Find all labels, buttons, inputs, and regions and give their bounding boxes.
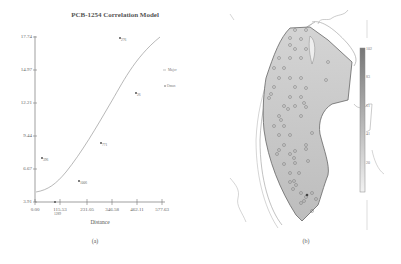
- caption-b: (b): [296, 238, 316, 244]
- caption-a: (a): [85, 238, 105, 244]
- colorbar-label: 41: [366, 131, 370, 136]
- correlation-chart: [0, 0, 220, 230]
- point-label: 1289: [54, 212, 61, 216]
- colorbar-label: 61: [366, 103, 370, 108]
- y-tick: 12.21: [2, 100, 32, 105]
- point-label: 396: [43, 158, 48, 162]
- legend-omax: Omax: [167, 84, 176, 88]
- y-tick: 17.74: [2, 34, 32, 39]
- y-tick: 9.44: [2, 133, 32, 138]
- y-tick: 14.97: [2, 67, 32, 72]
- colorbar-label: 83: [366, 74, 370, 79]
- y-tick: 3.91: [2, 199, 32, 204]
- colorbar-label: 102: [366, 46, 372, 51]
- x-tick: 577.63: [147, 207, 177, 212]
- legend-major: Major: [168, 68, 177, 72]
- point-label: 276: [121, 38, 126, 42]
- point-label: 1006: [80, 181, 87, 185]
- y-tick: 6.67: [2, 166, 32, 171]
- point-label: 771: [102, 143, 107, 147]
- x-axis-label: Distance: [80, 219, 120, 225]
- point-label: 26: [137, 93, 141, 97]
- colorbar-label: 20: [366, 160, 370, 165]
- colorbar: [360, 48, 365, 192]
- site-map: [220, 0, 401, 240]
